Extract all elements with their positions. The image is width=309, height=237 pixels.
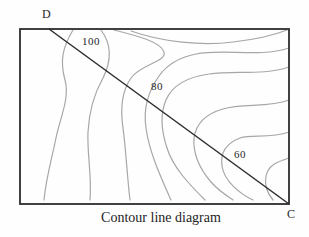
contour-value-label-60: 60	[234, 149, 246, 160]
corner-label-d: D	[42, 8, 51, 20]
diagonal-line-d-c	[49, 29, 289, 204]
contour-path-3	[131, 30, 287, 44]
contour-path-7	[222, 132, 289, 200]
contour-value-label-80: 80	[151, 81, 163, 92]
figure-caption: Contour line diagram	[101, 210, 221, 226]
contour-path-8	[265, 158, 289, 200]
contour-path-4	[145, 48, 289, 200]
contour-path-5	[162, 67, 289, 200]
frame-rect	[20, 29, 289, 204]
contour-svg	[0, 0, 309, 237]
corner-label-c: C	[287, 208, 295, 220]
contour-value-label-100: 100	[82, 36, 100, 47]
contour-path-2	[114, 30, 164, 200]
contour-path-0	[44, 30, 73, 200]
contour-path-1	[88, 30, 110, 200]
contour-line-diagram: D C 100 80 60 Contour line diagram	[0, 0, 309, 237]
